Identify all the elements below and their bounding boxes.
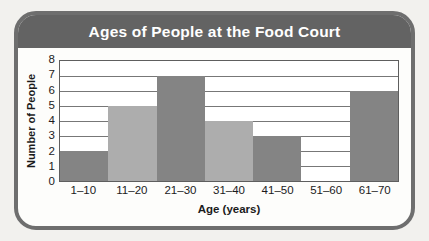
x-axis-label: Age (years)	[59, 203, 399, 215]
bar	[205, 121, 253, 181]
bar	[350, 91, 398, 181]
y-axis-tick: 3	[49, 131, 55, 143]
bar	[60, 151, 108, 181]
y-axis-tick: 6	[49, 85, 55, 97]
y-axis-label-text: Number of People	[25, 74, 37, 168]
x-axis-tick: 21–30	[156, 184, 205, 196]
y-axis-tick: 8	[49, 54, 55, 66]
bar-slot	[108, 61, 156, 181]
x-axis-tick: 61–70	[350, 184, 399, 196]
x-axis-tick: 51–60	[302, 184, 351, 196]
y-axis-tick: 7	[49, 70, 55, 82]
bar-slot	[253, 61, 301, 181]
y-axis-tick-labels: 876543210	[39, 60, 55, 182]
bar-slot	[301, 61, 349, 181]
x-axis-tick: 31–40	[205, 184, 254, 196]
bar	[157, 76, 205, 181]
plot-area	[59, 60, 399, 182]
x-axis-tick: 11–20	[108, 184, 157, 196]
bar-slot	[350, 61, 398, 181]
bar-slot	[157, 61, 205, 181]
x-axis-tick: 41–50	[253, 184, 302, 196]
bar-series	[60, 61, 398, 181]
bar-slot	[60, 61, 108, 181]
y-axis-label: Number of People	[23, 60, 39, 182]
y-axis-tick: 0	[49, 176, 55, 188]
chart-title: Ages of People at the Food Court	[89, 23, 341, 41]
bar	[253, 136, 301, 181]
bar	[108, 106, 156, 181]
y-axis-tick: 1	[49, 161, 55, 173]
bar-slot	[205, 61, 253, 181]
chart-title-bar: Ages of People at the Food Court	[18, 15, 411, 48]
x-axis-tick-labels: 1–1011–2021–3031–4041–5051–6061–70	[59, 184, 399, 196]
y-axis-tick: 4	[49, 115, 55, 127]
y-axis-tick: 2	[49, 146, 55, 158]
y-axis-tick: 5	[49, 100, 55, 112]
chart-figure: Ages of People at the Food Court Number …	[14, 11, 415, 230]
plot-wrapper: Number of People 876543210 1–1011–2021–3…	[18, 48, 411, 226]
x-axis-tick: 1–10	[59, 184, 108, 196]
